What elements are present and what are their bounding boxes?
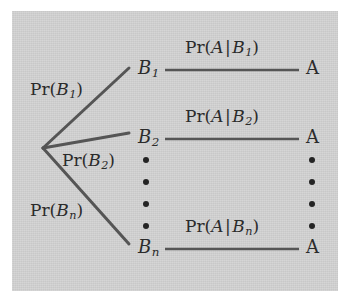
ellipsis-dot-right-4	[309, 223, 315, 229]
ellipsis-dot-right-3	[309, 201, 315, 207]
node-a-2: A	[306, 128, 319, 146]
node-b2: B2	[138, 128, 159, 149]
conditional-label-n: Pr(A|Bn)	[185, 218, 259, 237]
ellipsis-dot-right-1	[309, 157, 315, 163]
figure-canvas: Pr(B1) Pr(B2) Pr(Bn) B1 B2 Bn Pr(A|B1) P…	[0, 0, 349, 308]
ellipsis-dot-left-4	[143, 223, 149, 229]
diagram-lines	[0, 0, 349, 308]
conditional-label-1: Pr(A|B1)	[185, 39, 259, 58]
node-a-1: A	[306, 59, 319, 77]
ellipsis-dot-left-1	[143, 157, 149, 163]
ellipsis-dot-left-2	[143, 179, 149, 185]
branch-label-bn: Pr(Bn)	[30, 202, 83, 221]
branch-label-b1: Pr(B1)	[30, 81, 83, 100]
conditional-label-2: Pr(A|B2)	[185, 108, 259, 127]
ellipsis-dot-left-3	[143, 201, 149, 207]
branch-label-b2: Pr(B2)	[62, 152, 115, 171]
node-bn: Bn	[138, 238, 159, 259]
node-b1: B1	[138, 59, 159, 80]
ellipsis-dot-right-2	[309, 179, 315, 185]
node-a-n: A	[306, 238, 319, 256]
